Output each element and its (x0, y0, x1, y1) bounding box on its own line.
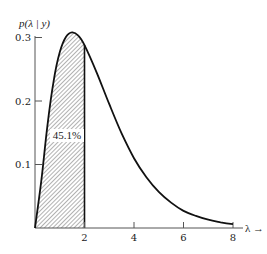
x-axis-title: λ → (245, 222, 264, 234)
y-tick-label: 0.1 (15, 159, 31, 170)
shaded-percentage-label: 45.1% (53, 129, 81, 141)
y-axis-title: p(λ | y) (18, 17, 50, 30)
x-tick-label: 6 (180, 232, 186, 243)
x-ticks: 2468 (81, 222, 236, 243)
x-tick-label: 8 (230, 232, 236, 243)
y-tick-label: 0.3 (15, 32, 31, 43)
x-tick-label: 2 (81, 232, 87, 243)
y-ticks: 0.10.20.3 (15, 32, 42, 170)
density-chart: 0.10.20.3 2468 45.1% p(λ | y) λ → (0, 0, 267, 254)
x-tick-label: 4 (131, 232, 137, 243)
y-tick-label: 0.2 (15, 96, 31, 107)
